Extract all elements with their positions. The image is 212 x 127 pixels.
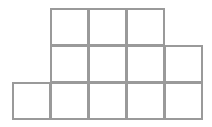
grid-square (50, 45, 89, 83)
grid-square (164, 82, 203, 120)
grid-square (126, 82, 165, 120)
grid-square (50, 8, 89, 46)
grid-square (126, 45, 165, 83)
grid-square (12, 82, 51, 120)
grid-square (126, 8, 165, 46)
square-grid-figure (0, 0, 212, 127)
grid-square (50, 82, 89, 120)
grid-square (88, 8, 127, 46)
grid-square (88, 82, 127, 120)
grid-square (164, 45, 203, 83)
grid-square (88, 45, 127, 83)
